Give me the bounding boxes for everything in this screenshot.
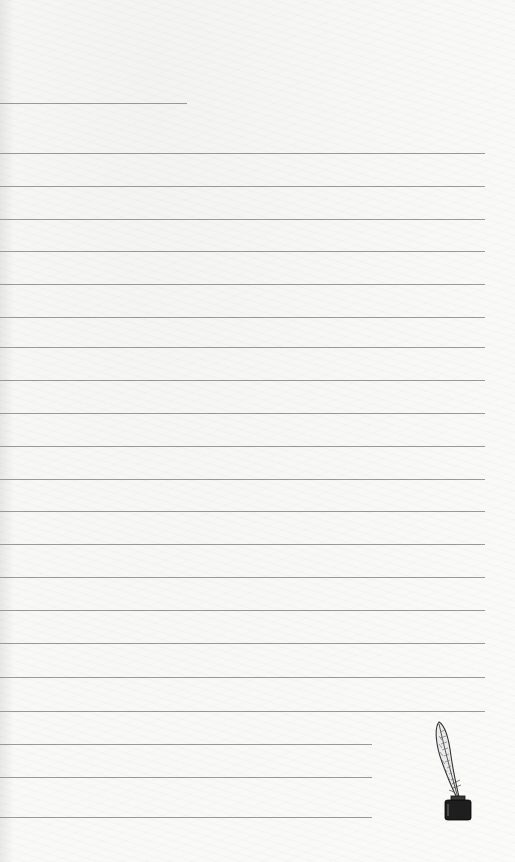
writing-line [0, 446, 485, 447]
writing-line [0, 186, 485, 187]
writing-line [0, 577, 485, 578]
title-line [0, 103, 187, 104]
writing-line [0, 219, 485, 220]
writing-line [0, 643, 485, 644]
writing-line [0, 817, 372, 818]
writing-line [0, 347, 485, 348]
writing-line [0, 284, 485, 285]
writing-line [0, 744, 372, 745]
writing-line [0, 380, 485, 381]
writing-line [0, 777, 372, 778]
lined-paper-page [0, 0, 515, 862]
writing-line [0, 610, 485, 611]
writing-line [0, 511, 485, 512]
writing-line [0, 317, 485, 318]
writing-line [0, 413, 485, 414]
writing-line [0, 544, 485, 545]
writing-line [0, 711, 485, 712]
writing-line [0, 677, 485, 678]
writing-line [0, 251, 485, 252]
quill-inkwell-icon [430, 718, 478, 822]
writing-line [0, 153, 485, 154]
writing-line [0, 479, 485, 480]
